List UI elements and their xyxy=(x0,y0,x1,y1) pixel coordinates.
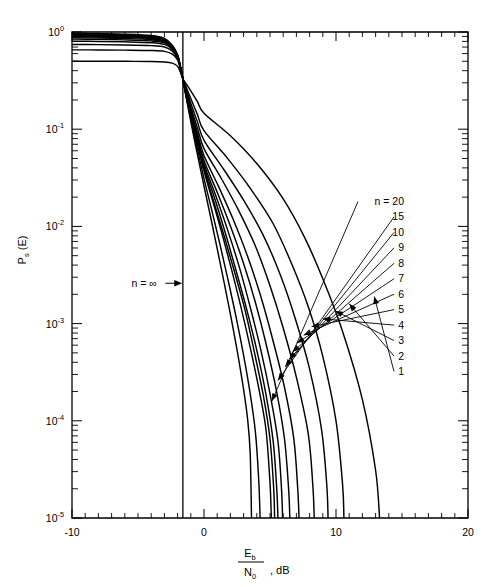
chart-figure: n = ∞ -1001020 10010-110-210-310-410-5 n… xyxy=(0,0,497,587)
legend-label-3: 3 xyxy=(398,334,404,346)
x-tick-label-0: -10 xyxy=(64,526,79,538)
legend-label-5: 5 xyxy=(398,303,404,315)
x-tick-label-2: 10 xyxy=(330,526,342,538)
legend-label-1: 1 xyxy=(398,365,404,377)
legend-label-2: 2 xyxy=(398,350,404,362)
x-tick-label-3: 20 xyxy=(462,526,474,538)
legend-label-10: 10 xyxy=(392,226,404,238)
legend-label-8: 8 xyxy=(398,257,404,269)
legend-label-7: 7 xyxy=(398,272,404,284)
x-axis-title-suffix: , dB xyxy=(270,564,290,576)
asymptote-annotation-label: n = ∞ xyxy=(131,277,156,289)
legend-label-6: 6 xyxy=(398,288,404,300)
chart-canvas: n = ∞ -1001020 10010-110-210-310-410-5 n… xyxy=(0,0,497,587)
legend-label-9: 9 xyxy=(398,241,404,253)
x-tick-label-1: 0 xyxy=(201,526,207,538)
legend-label-4: 4 xyxy=(398,319,404,331)
y-axis-title-tail: (E) xyxy=(16,236,28,254)
y-axis-title-main: P xyxy=(16,257,28,264)
legend-label-20: n = 20 xyxy=(375,195,405,207)
legend-label-15: 15 xyxy=(392,210,404,222)
chart-background xyxy=(0,0,497,587)
